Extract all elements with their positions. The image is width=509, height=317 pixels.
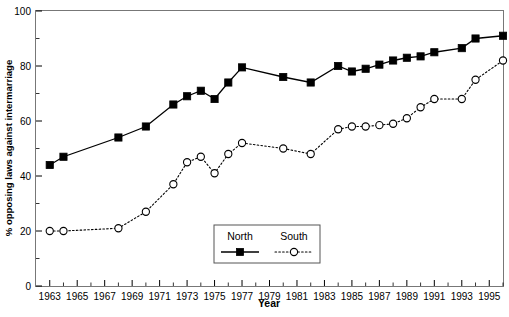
x-tick-label: 1973 [176,291,199,302]
data-point-south [46,227,53,234]
data-point-north [307,79,314,86]
data-point-north [238,64,245,71]
x-tick-label: 1971 [148,291,171,302]
data-point-south [403,115,410,122]
data-point-south [115,225,122,232]
data-point-north [46,161,53,168]
x-tick-label: 1975 [203,291,226,302]
data-point-south [335,126,342,133]
data-point-south [499,57,506,64]
x-tick-label: 1987 [368,291,391,302]
y-tick-label: 0 [25,281,31,292]
x-tick-label: 1983 [313,291,336,302]
data-point-north [197,87,204,94]
data-point-north [183,93,190,100]
data-point-north [417,53,424,60]
data-point-south [472,76,479,83]
data-point-south [197,153,204,160]
data-point-north [376,61,383,68]
data-point-south [348,123,355,130]
data-point-north [472,35,479,42]
data-point-south [211,170,218,177]
y-axis-title: % opposing laws against intermarriage [3,60,14,236]
series-line-south [50,61,503,232]
y-tick-label: 100 [14,6,31,17]
data-point-north [335,62,342,69]
data-point-north [170,101,177,108]
legend-label-south: South [280,230,308,242]
x-tick-label: 1977 [231,291,254,302]
y-tick-label: 80 [20,61,32,72]
data-point-south [170,181,177,188]
x-tick-label: 1991 [423,291,446,302]
y-tick-label: 60 [20,116,32,127]
data-point-south [225,150,232,157]
data-point-north [60,153,67,160]
x-tick-label: 1995 [478,291,501,302]
chart-container: 020406080100 196319651967196919711973197… [0,0,509,317]
x-tick-label: 1965 [66,291,89,302]
data-point-south [60,227,67,234]
data-point-south [431,95,438,102]
series-south [46,57,506,235]
x-tick-label: 1967 [94,291,117,302]
x-tick-label: 1969 [121,291,144,302]
x-tick-label: 1981 [286,291,309,302]
y-tick-label: 20 [20,226,32,237]
data-point-south [417,104,424,111]
x-tick-label: 1989 [396,291,419,302]
x-tick-label: 1985 [341,291,364,302]
data-point-north [348,68,355,75]
data-point-south [390,120,397,127]
data-point-north [390,57,397,64]
data-point-north [142,123,149,130]
data-point-south [376,122,383,129]
legend: North South [214,225,320,263]
y-axis-ticks [36,11,42,286]
x-tick-label: 1993 [451,291,474,302]
data-point-north [403,54,410,61]
y-tick-label: 40 [20,171,32,182]
x-tick-label: 1963 [39,291,62,302]
data-point-north [431,49,438,56]
y-axis-tick-labels: 020406080100 [14,6,31,292]
data-point-north [280,73,287,80]
data-point-north [211,95,218,102]
data-point-north [115,134,122,141]
x-axis-title: Year [258,297,280,309]
x-axis-ticks [50,280,503,286]
line-chart: 020406080100 196319651967196919711973197… [0,0,509,317]
data-point-south [362,123,369,130]
data-point-south [458,95,465,102]
data-point-south [280,145,287,152]
data-point-north [225,79,232,86]
data-point-north [499,32,506,39]
legend-label-north: North [227,230,253,242]
data-point-south [142,208,149,215]
data-point-north [362,65,369,72]
data-point-south [183,159,190,166]
data-point-south [238,139,245,146]
data-point-north [458,45,465,52]
data-point-south [307,150,314,157]
